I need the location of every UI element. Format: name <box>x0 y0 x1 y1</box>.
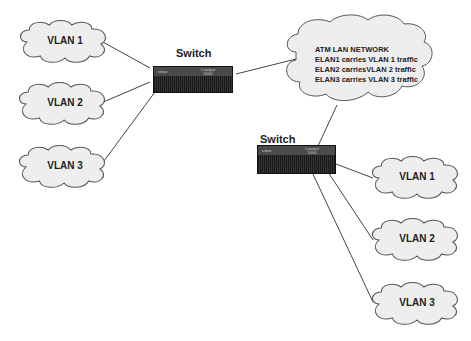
switch-right-title: Switch <box>260 133 295 145</box>
link-right-vlan3 <box>312 172 373 302</box>
label-right-vlan1: VLAN 1 <box>392 171 442 182</box>
switch-right-ports <box>258 155 335 173</box>
label-right-vlan2: VLAN 2 <box>392 233 442 244</box>
switch-left: cisco Catalyst 5000 <box>153 66 233 93</box>
cisco-logo-icon: cisco <box>158 69 167 74</box>
label-left-vlan2: VLAN 2 <box>40 97 90 108</box>
atm-elan2: ELAN2 carriesVLAN 2 traffic <box>315 65 418 75</box>
atm-elan1: ELAN1 carries VLAN 1 traffic <box>315 55 418 65</box>
label-left-vlan3: VLAN 3 <box>40 160 90 171</box>
switch-right: cisco Catalyst 5000 <box>257 145 336 174</box>
link-left-vlan3 <box>101 92 155 165</box>
atm-title: ATM LAN NETWORK <box>315 45 418 55</box>
label-right-vlan3: VLAN 3 <box>392 297 442 308</box>
atm-cloud-text: ATM LAN NETWORK ELAN1 carries VLAN 1 tra… <box>315 45 418 85</box>
label-left-vlan1: VLAN 1 <box>40 35 90 46</box>
link-left-vlan2 <box>101 82 150 103</box>
cisco-logo-icon: cisco <box>262 148 271 153</box>
switch-left-ports <box>154 76 232 92</box>
link-right-vlan1 <box>336 164 373 178</box>
link-left-vlan1 <box>101 41 150 68</box>
switch-right-model: Catalyst 5000 <box>302 147 322 155</box>
switch-left-model: Catalyst 5000 <box>198 68 218 76</box>
switch-left-title: Switch <box>176 47 211 59</box>
link-right-vlan2 <box>328 172 373 240</box>
atm-elan3: ELAN3 carries VLAN 3 traffic <box>315 75 418 85</box>
link-switch-atm-right <box>318 105 337 146</box>
